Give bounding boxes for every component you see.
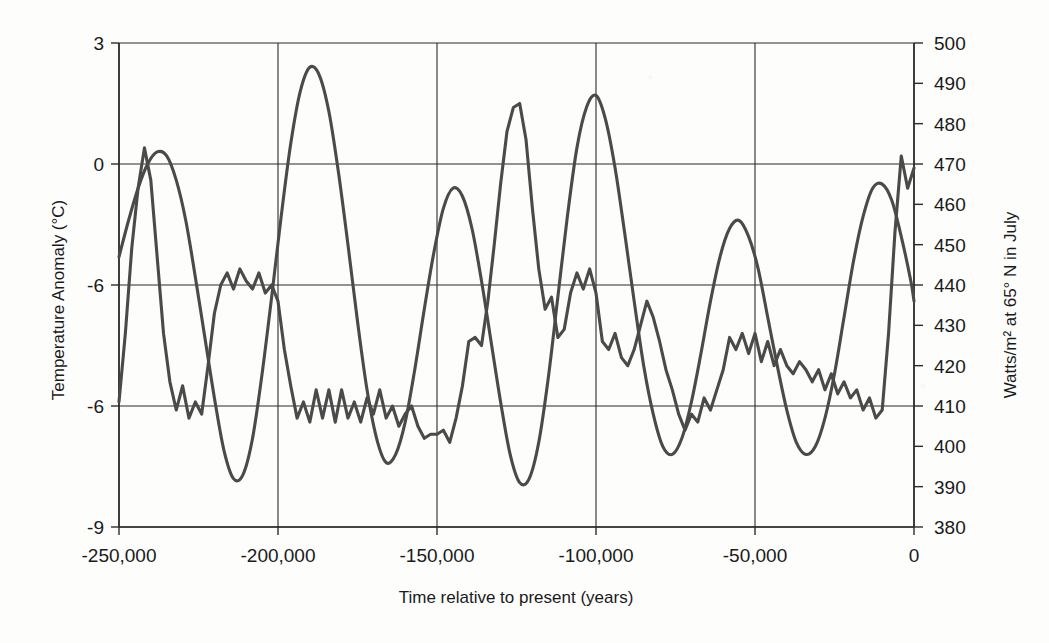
y-tick-label-right: 430: [934, 315, 966, 336]
data-series: [119, 66, 914, 485]
y-tick-label-right: 420: [934, 356, 966, 377]
y-tick-label-left: 0: [93, 154, 104, 175]
y-tick-label-right: 490: [934, 73, 966, 94]
y-tick-label-right: 460: [934, 194, 966, 215]
x-tick-label: -50,000: [723, 545, 787, 566]
series-temperature-anomaly: [119, 104, 914, 443]
y-axis-right-title: Watts/m² at 65° N in July: [1001, 211, 1020, 398]
y-tick-label-right: 470: [934, 154, 966, 175]
y-tick-label-left: -6: [87, 275, 104, 296]
y-tick-label-right: 440: [934, 275, 966, 296]
y-tick-label-right: 450: [934, 235, 966, 256]
y-tick-label-right: 390: [934, 477, 966, 498]
x-tick-label: -250,000: [81, 545, 156, 566]
chart-canvas: 30-6-6-950049048047046045044043042041040…: [0, 0, 1049, 643]
y-tick-label-right: 410: [934, 396, 966, 417]
y-tick-label-right: 380: [934, 517, 966, 538]
x-tick-label: -200,000: [240, 545, 315, 566]
y-tick-label-left: 3: [93, 33, 104, 54]
x-tick-label: 0: [909, 545, 920, 566]
y-tick-label-right: 480: [934, 114, 966, 135]
y-tick-label-right: 500: [934, 33, 966, 54]
chart-figure: 30-6-6-950049048047046045044043042041040…: [0, 0, 1049, 643]
x-tick-label: -100,000: [558, 545, 633, 566]
y-tick-label-left: -6: [87, 396, 104, 417]
x-axis-title: Time relative to present (years): [399, 588, 634, 607]
y-tick-label-left: -9: [87, 517, 104, 538]
x-tick-label: -150,000: [399, 545, 474, 566]
gridlines: [119, 43, 914, 527]
y-axis-left-title: Temperature Anomaly (°C): [49, 200, 68, 400]
y-tick-label-right: 400: [934, 436, 966, 457]
